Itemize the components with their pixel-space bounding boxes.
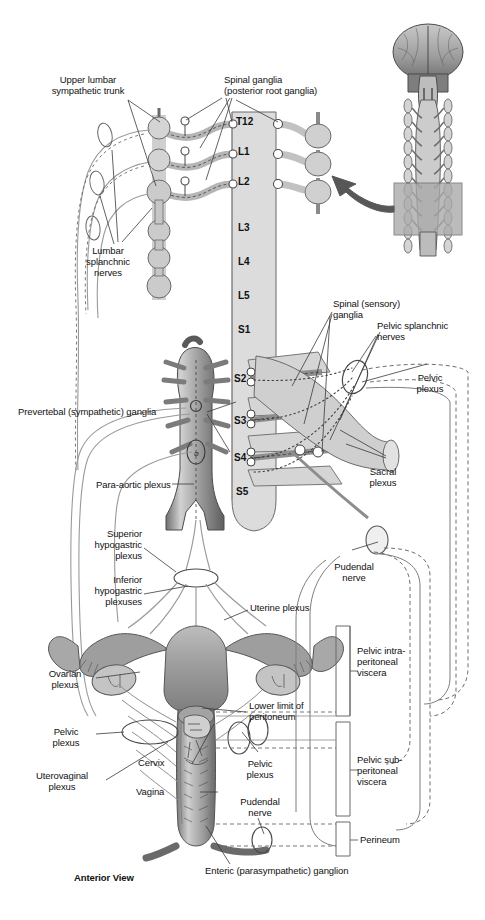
label-cervix: Cervix — [138, 757, 182, 768]
vertebral-label-l5: L5 — [238, 290, 250, 301]
vertebral-label-s4: S4 — [234, 452, 246, 463]
sympathetic-chain-right — [274, 112, 332, 214]
label-lower-limit-of-peritoneum: Lower limit of peritoneum — [249, 700, 333, 722]
anatomy-figure: ⌀ — [0, 0, 485, 920]
label-sacral-plexus: Sacral plexus — [356, 466, 410, 488]
label-upper-lumbar-sympathetic-trunk: Upper lumbar sympathetic trunk — [28, 74, 148, 96]
brain-spinal-cord-inset — [393, 24, 463, 256]
label-pelvic-plexus-center: Pelvic plexus — [234, 758, 286, 780]
label-ovarian-plexus: Ovarian plexus — [36, 668, 94, 690]
label-superior-hypogastric-plexus: Superior hypogastric plexus — [56, 528, 142, 561]
vertebral-label-l3: L3 — [238, 222, 250, 233]
abdominal-aorta: ⌀ — [164, 338, 228, 530]
label-pudendal-nerve-upper: Pudendal nerve — [326, 561, 382, 583]
label-prevertebal-sympathetic-ganglia: Prevertebal (sympathetic) ganglia — [18, 406, 208, 417]
label-spinal-sensory-ganglia: Spinal (sensory) ganglia — [333, 298, 433, 320]
vertebral-label-t12: T12 — [236, 116, 253, 127]
pelvic-plexus-ring-upper — [338, 357, 371, 397]
label-pelvic-subperitoneal-viscera: Pelvic sub- peritoneal viscera — [357, 754, 431, 787]
vertebral-label-s1: S1 — [238, 324, 250, 335]
vertebral-label-l4: L4 — [238, 256, 250, 267]
label-spinal-ganglia-posterior-root: Spinal ganglia (posterior root ganglia) — [224, 74, 364, 96]
label-pudendal-nerve-lower: Pudendal nerve — [232, 796, 288, 818]
hypogastric-plexus-paths — [128, 520, 266, 634]
spinal-nerve-roots-lumbar — [162, 124, 232, 197]
lumbar-splanchnic-nerve-paths — [75, 122, 150, 472]
label-vagina: Vagina — [136, 786, 182, 797]
label-pelvic-intraperitoneal-viscera: Pelvic intra- peritoneal viscera — [357, 645, 431, 678]
svg-text:⌀: ⌀ — [194, 449, 199, 458]
label-perineum: Perineum — [360, 834, 426, 845]
label-para-aortic-plexus: Para-aortic plexus — [96, 479, 206, 490]
inset-pointer-arrow — [332, 176, 394, 212]
view-caption: Anterior View — [74, 872, 194, 883]
vertebral-label-l2: L2 — [238, 176, 250, 187]
label-pelvic-plexus-upper: Pelvic plexus — [404, 372, 456, 394]
vertebral-label-s3: S3 — [234, 415, 246, 426]
vertebral-label-l1: L1 — [238, 146, 250, 157]
label-inferior-hypogastric-plexuses: Inferior hypogastric plexuses — [50, 574, 142, 607]
spinal-cord-column — [232, 112, 276, 531]
label-pelvic-plexus-left: Pelvic plexus — [38, 726, 94, 748]
label-enteric-parasympathetic-ganglion: Enteric (parasympathetic) ganglion — [205, 865, 385, 876]
label-uterovaginal-plexus: Uterovaginal plexus — [22, 770, 102, 792]
label-lumbar-splanchnic-nerves: Lumbar splanchnic nerves — [63, 245, 153, 278]
label-uterine-plexus: Uterine plexus — [250, 602, 334, 613]
vertebral-label-s2: S2 — [234, 373, 246, 384]
vertebral-label-s5: S5 — [236, 486, 248, 497]
label-pelvic-splanchnic-nerves: Pelvic splanchnic nerves — [377, 320, 485, 342]
